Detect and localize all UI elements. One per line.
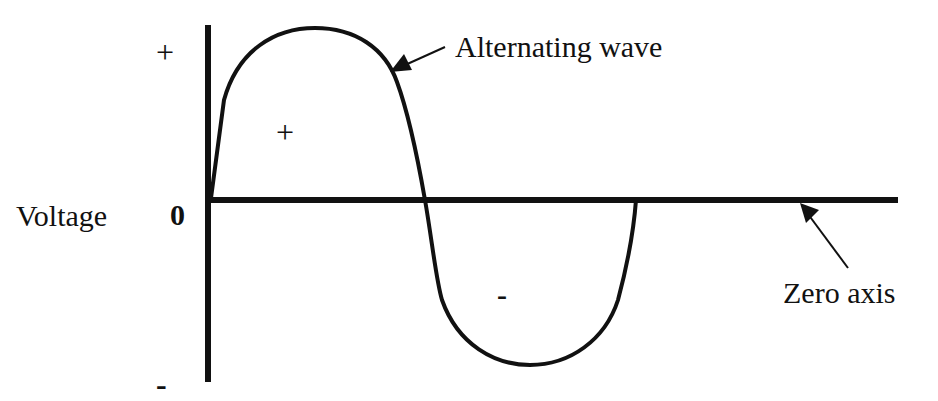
zero-axis-label: Zero axis bbox=[783, 278, 895, 308]
negative-half-cycle bbox=[425, 200, 636, 365]
negative-voltage-label: - bbox=[156, 368, 167, 400]
positive-voltage-label: + bbox=[156, 36, 174, 68]
zero-axis-arrow bbox=[805, 210, 848, 268]
alternating-wave-label: Alternating wave bbox=[455, 32, 662, 62]
positive-half-cycle bbox=[211, 28, 425, 200]
zero-axis-arrowhead bbox=[800, 203, 819, 223]
zero-label: 0 bbox=[170, 200, 185, 230]
negative-region-label: - bbox=[497, 280, 507, 310]
voltage-axis-label: Voltage bbox=[16, 201, 107, 231]
positive-region-label: + bbox=[276, 116, 294, 148]
